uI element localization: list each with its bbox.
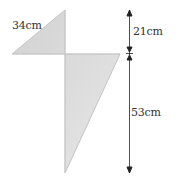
lower-height-label: 53cm	[131, 106, 161, 119]
height-arrow	[126, 10, 133, 173]
upper-height-label: 21cm	[133, 25, 163, 38]
kite-shape	[12, 10, 120, 173]
side-length-label: 34cm	[12, 19, 42, 32]
